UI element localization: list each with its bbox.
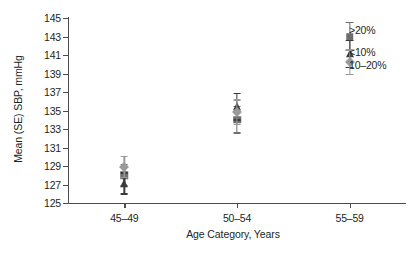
y-tick-label: 145 bbox=[44, 12, 61, 24]
y-tick-label: 141 bbox=[44, 49, 61, 61]
y-tick-mark bbox=[63, 166, 68, 167]
legend-item-label: <10% bbox=[349, 46, 375, 58]
x-tick-mark bbox=[237, 203, 238, 208]
y-tick-mark bbox=[63, 37, 68, 38]
x-axis-title: Age Category, Years bbox=[68, 228, 398, 240]
error-bar-cap-bottom bbox=[121, 177, 129, 178]
y-tick-mark bbox=[63, 111, 68, 112]
legend-item-label: 10–20% bbox=[349, 59, 386, 71]
y-tick-mark bbox=[63, 129, 68, 130]
y-tick-label: 129 bbox=[44, 160, 61, 172]
marker-triangle-icon bbox=[120, 179, 128, 187]
error-bar-cap-top bbox=[121, 156, 129, 157]
y-tick-label: 143 bbox=[44, 31, 61, 43]
y-tick-mark bbox=[63, 74, 68, 75]
y-tick-mark bbox=[63, 18, 68, 19]
y-tick-label: 135 bbox=[44, 105, 61, 117]
y-tick-mark bbox=[63, 203, 68, 204]
error-bar-cap-bottom bbox=[346, 74, 354, 75]
x-tick-mark bbox=[124, 203, 125, 208]
legend-item: >20% bbox=[349, 24, 375, 36]
y-tick-mark bbox=[63, 185, 68, 186]
y-tick-label: 127 bbox=[44, 179, 61, 191]
y-axis-title: Mean (SE) SBP, mmHg bbox=[9, 17, 27, 202]
error-bar-cap-top bbox=[233, 99, 241, 100]
y-tick-label: 137 bbox=[44, 86, 61, 98]
y-tick-mark bbox=[63, 148, 68, 149]
y-tick-mark bbox=[63, 92, 68, 93]
legend-item: <10% bbox=[349, 46, 375, 58]
scatter-chart: Mean (SE) SBP, mmHg 14514314113913713513… bbox=[0, 0, 414, 257]
legend-item-label: >20% bbox=[349, 24, 375, 36]
y-tick-label: 131 bbox=[44, 142, 61, 154]
y-tick-label: 125 bbox=[44, 197, 61, 209]
legend-item: 10–20% bbox=[349, 59, 386, 71]
y-tick-label: 133 bbox=[44, 123, 61, 135]
x-tick-mark bbox=[350, 203, 351, 208]
error-bar-cap-top bbox=[233, 93, 241, 94]
error-bar-cap-bottom bbox=[233, 132, 241, 133]
y-tick-label: 139 bbox=[44, 68, 61, 80]
y-tick-mark bbox=[63, 55, 68, 56]
error-bar-cap-top bbox=[346, 40, 354, 41]
x-tick-label: 50–54 bbox=[223, 212, 251, 224]
error-bar-cap-bottom bbox=[121, 193, 129, 194]
error-bar-cap-top bbox=[346, 22, 354, 23]
error-bar-cap-bottom bbox=[233, 124, 241, 125]
x-tick-label: 55–59 bbox=[336, 212, 364, 224]
x-tick-label: 45–49 bbox=[110, 212, 138, 224]
